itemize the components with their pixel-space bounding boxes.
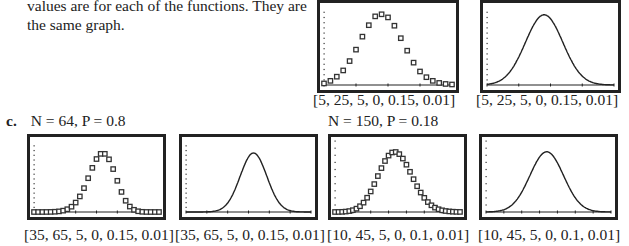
window-label: [5, 25, 5, 0, 0.15, 0.01]: [476, 91, 618, 109]
scatter-plot-n64: [27, 134, 166, 220]
window-label: [10, 45, 5, 0, 0.1, 0.01]: [478, 226, 620, 244]
part-c-marker: c.: [6, 112, 17, 129]
part-c-right-condition: N = 150, P = 0.18: [328, 112, 438, 130]
curve-plot-n64: [179, 134, 318, 220]
scatter-plot-n150: [328, 134, 467, 220]
instruction-paragraph: values are for each of the functions. Th…: [27, 0, 317, 34]
curve-plot-n150: [479, 134, 618, 220]
window-label: [5, 25, 5, 0, 0.15, 0.01]: [313, 91, 455, 109]
part-c-left-condition: N = 64, P = 0.8: [31, 112, 126, 129]
window-label: [35, 65, 5, 0, 0.15, 0.01]: [175, 226, 325, 244]
part-c-heading: c.N = 64, P = 0.8: [6, 112, 126, 130]
scatter-plot-top-left: [317, 0, 459, 93]
window-label: [35, 65, 5, 0, 0.15, 0.01]: [24, 226, 174, 244]
window-label: [10, 45, 5, 0, 0.1, 0.01]: [327, 226, 469, 244]
curve-plot-top-right: [480, 0, 621, 93]
